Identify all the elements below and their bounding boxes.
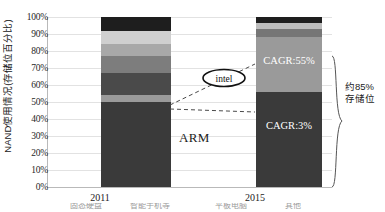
intel-logo: intel — [202, 68, 246, 88]
y-tick-60: 60% — [8, 81, 48, 91]
y-tick-30: 30% — [8, 132, 48, 142]
arm-label: ARM — [179, 131, 210, 145]
legend-item-2: 智能手机等 — [130, 203, 170, 210]
y-tick-80: 80% — [8, 47, 48, 57]
plot-area: CAGR:55% CAGR:3% ARM — [47, 17, 332, 188]
bar-2011 — [101, 17, 171, 187]
bar-2015-segment-3 — [256, 29, 322, 37]
intel-logo-text: intel — [216, 74, 233, 84]
cagr-55-label: CAGR:55% — [256, 55, 322, 66]
bar-2011-segment-5 — [101, 44, 171, 56]
y-tick-40: 40% — [8, 115, 48, 125]
bar-2011-segment-3 — [101, 73, 171, 95]
bar-2015-segment-5 — [256, 17, 322, 23]
y-tick-10: 10% — [8, 166, 48, 176]
cagr-3-label: CAGR:3% — [256, 120, 322, 131]
y-tick-50: 50% — [8, 98, 48, 108]
brace-icon — [330, 55, 344, 188]
y-tick-20: 20% — [8, 149, 48, 159]
brace-note-line2: 存储位 — [345, 93, 385, 105]
x-tick-2011: 2011 — [65, 192, 135, 203]
nand-usage-stacked-bar-chart: NAND使用情况(存储位百分比) — [0, 0, 385, 212]
y-tick-90: 90% — [8, 30, 48, 40]
brace-note: 约85% 存储位 — [345, 81, 385, 104]
y-tick-0: 0% — [8, 183, 48, 193]
bar-2015-segment-1 — [256, 92, 322, 187]
bar-2011-segment-1 — [101, 102, 171, 187]
bar-2015-segment-4 — [256, 23, 322, 29]
bar-2015 — [256, 17, 322, 187]
legend-item-3: 平板电脑 — [215, 203, 247, 210]
bar-2011-segment-2 — [101, 95, 171, 102]
brace-note-line1: 约85% — [345, 81, 385, 93]
bar-2011-segment-7 — [101, 17, 171, 31]
x-tick-2015: 2015 — [222, 192, 288, 203]
bar-2011-segment-4 — [101, 56, 171, 73]
y-tick-70: 70% — [8, 64, 48, 74]
legend-strip: 固态硬盘 智能手机等 平板电脑 其他 — [0, 203, 385, 212]
legend-item-4: 其他 — [285, 203, 301, 210]
bar-2011-segment-6 — [101, 31, 171, 44]
legend-item-1: 固态硬盘 — [70, 203, 102, 210]
y-tick-100: 100% — [8, 13, 48, 23]
